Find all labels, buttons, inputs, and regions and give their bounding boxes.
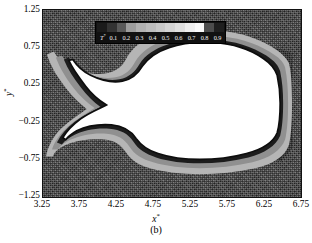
x-tick-label: 4.25	[96, 200, 136, 209]
x-tick-label: 6.25	[244, 200, 284, 209]
plot-area: T* 0.1 0.2 0.3 0.4 0.5 0.6 0.7 0.8 0.9	[42, 9, 302, 198]
colorbar-tick: 0.3	[133, 34, 146, 41]
colorbar-swatch	[156, 23, 166, 32]
colorbar-legend: T* 0.1 0.2 0.3 0.4 0.5 0.6 0.7 0.8 0.9	[95, 21, 226, 44]
y-tick-label: 0.25	[0, 79, 40, 88]
y-tick-label: −0.75	[0, 154, 40, 163]
colorbar-swatch	[195, 23, 205, 32]
figure-panel: T* 0.1 0.2 0.3 0.4 0.5 0.6 0.7 0.8 0.9 1…	[0, 0, 312, 243]
colorbar-swatches	[97, 23, 224, 32]
colorbar-swatch	[97, 23, 107, 32]
colorbar-swatch	[214, 23, 224, 32]
x-axis-label: x*	[0, 212, 312, 224]
y-axis-label: y*	[2, 88, 14, 96]
colorbar-title-superscript: *	[104, 33, 106, 38]
y-axis-label-superscript: *	[2, 88, 9, 91]
colorbar-tick: 0.2	[120, 34, 133, 41]
colorbar-swatch	[175, 23, 185, 32]
x-tick-label: 5.25	[170, 200, 210, 209]
colorbar-tick: 0.1	[107, 34, 120, 41]
colorbar-swatch	[107, 23, 117, 32]
colorbar-title: T*	[97, 33, 107, 41]
x-tick-label: 6.75	[281, 200, 312, 209]
y-tick-label: −0.25	[0, 117, 40, 126]
x-tick-label: 4.75	[133, 200, 173, 209]
x-tick-label: 3.25	[22, 200, 62, 209]
colorbar-tick: 0.8	[198, 34, 211, 41]
colorbar-tick-labels: T* 0.1 0.2 0.3 0.4 0.5 0.6 0.7 0.8 0.9	[97, 32, 224, 43]
x-tick-label: 5.75	[207, 200, 247, 209]
colorbar-swatch	[165, 23, 175, 32]
colorbar-swatch	[136, 23, 146, 32]
colorbar-swatch	[185, 23, 195, 32]
x-tick-label: 3.75	[59, 200, 99, 209]
colorbar-tick: 0.7	[185, 34, 198, 41]
figure-caption: (b)	[0, 224, 312, 235]
y-tick-label: 0.75	[0, 42, 40, 51]
colorbar-tick: 0.5	[159, 34, 172, 41]
colorbar-swatch	[126, 23, 136, 32]
colorbar-tick: 0.6	[172, 34, 185, 41]
x-axis-label-superscript: *	[156, 212, 159, 219]
colorbar-tick: 0.9	[211, 34, 224, 41]
colorbar-swatch	[146, 23, 156, 32]
colorbar-tick: 0.4	[146, 34, 159, 41]
colorbar-swatch	[204, 23, 214, 32]
colorbar-swatch	[117, 23, 127, 32]
y-tick-label: 1.25	[0, 5, 40, 14]
